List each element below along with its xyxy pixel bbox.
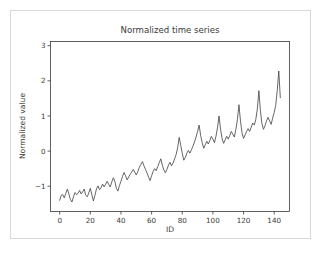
x-axis-title: ID xyxy=(166,225,174,234)
chart-title: Normalized time series xyxy=(120,25,220,35)
x-axis-ticks: 020406080100120140 xyxy=(57,212,281,225)
y-tick-label: 3 xyxy=(41,41,46,50)
x-tick-label: 140 xyxy=(267,216,281,225)
y-tick-label: 1 xyxy=(41,112,46,121)
x-tick-label: 120 xyxy=(237,216,251,225)
line-chart: 020406080100120140 −10123 Normalized tim… xyxy=(0,0,322,253)
x-tick-label: 100 xyxy=(206,216,220,225)
x-tick-label: 20 xyxy=(86,216,96,225)
y-axis-title: Normalized value xyxy=(18,93,27,160)
data-series-group xyxy=(60,71,281,202)
x-tick-label: 60 xyxy=(147,216,157,225)
plot-frame xyxy=(51,42,290,212)
y-tick-label: 2 xyxy=(41,76,46,85)
y-axis-ticks: −10123 xyxy=(35,41,51,190)
series-line-normalized-value xyxy=(60,71,281,202)
x-tick-label: 80 xyxy=(178,216,188,225)
y-tick-label: 0 xyxy=(41,147,46,156)
x-tick-label: 40 xyxy=(116,216,126,225)
x-tick-label: 0 xyxy=(57,216,62,225)
figure-canvas: 020406080100120140 −10123 Normalized tim… xyxy=(0,0,322,253)
y-tick-label: −1 xyxy=(35,182,46,191)
